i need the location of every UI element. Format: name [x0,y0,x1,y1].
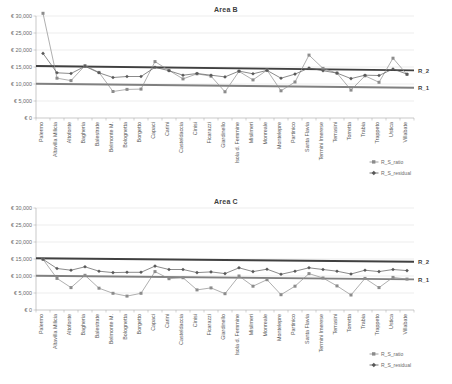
diamond-marker-icon [251,72,255,76]
chart-svg-1: € 0€ 5,000€ 10,000€ 15,000€ 20,000€ 25,0… [0,0,452,192]
x-axis-tick-label[interactable]: Giardinello [220,122,226,148]
reference-line-label-R_1: R_1 [418,277,430,283]
y-axis-tick-label: € 0 [25,115,33,121]
x-axis-tick-label[interactable]: Villabate [402,314,408,335]
reference-line-R_1 [36,276,414,280]
x-axis-tick-label[interactable]: Giardinello [220,314,226,340]
charts-root: Area B€ 0€ 5,000€ 10,000€ 15,000€ 20,000… [0,0,452,384]
series-line-R_S_ratio [43,13,407,92]
diamond-marker-icon [391,268,395,272]
x-axis-tick-label[interactable]: Casteldaccia [178,122,184,153]
x-axis-tick-label[interactable]: Santa Flavia [304,314,310,344]
x-axis-tick-label[interactable]: Trabia [360,122,366,137]
square-marker-icon [182,276,185,279]
diamond-marker-icon [69,72,73,76]
x-axis-tick-label[interactable]: Bagheria [80,122,86,144]
x-axis-tick-label[interactable]: Belmonte M. [108,122,114,152]
x-axis-tick-label[interactable]: Balestrate [94,314,100,338]
square-marker-icon [126,88,129,91]
x-axis-tick-label[interactable]: Bagheria [80,314,86,336]
x-axis-tick-label[interactable]: Cinisi [192,122,198,135]
x-axis-tick-label[interactable]: Montelepre [276,122,282,149]
diamond-marker-icon [293,72,297,76]
x-axis-tick-label[interactable]: Altavilla Milicia [52,314,58,349]
square-marker-icon [322,277,325,280]
x-axis-tick-label[interactable]: Bolognetta [122,314,128,340]
x-axis-tick-label[interactable]: Villabate [402,122,408,143]
x-axis-tick-label[interactable]: Misilmeri [248,122,254,143]
plot-area: € 0€ 5,000€ 10,000€ 15,000€ 20,000€ 25,0… [0,0,452,192]
square-marker-icon [252,285,255,288]
square-marker-icon [140,292,143,295]
square-marker-icon [294,81,297,84]
x-axis-tick-label[interactable]: Montelepre [276,314,282,341]
square-marker-icon [308,54,311,57]
y-axis-tick-label: € 10,000 [11,81,32,87]
x-axis-tick-label[interactable]: Capaci [150,314,156,331]
chart-svg-2: € 0€ 5,000€ 10,000€ 15,000€ 20,000€ 25,0… [0,192,452,384]
diamond-marker-icon [125,75,129,79]
x-axis-tick-label[interactable]: Trabia [360,314,366,329]
chart-block-2: Area C€ 0€ 5,000€ 10,000€ 15,000€ 20,000… [0,192,452,384]
x-axis-tick-label[interactable]: Trappeto [374,314,380,335]
x-axis-tick-label[interactable]: Terrasini [332,122,338,142]
x-axis-tick-label[interactable]: Palermo [38,122,44,142]
x-axis-tick-label[interactable]: Isola d. Femmine [234,122,240,163]
square-marker-icon [378,81,381,84]
x-axis-tick-label[interactable]: Misilmeri [248,314,254,335]
x-axis-tick-label[interactable]: Carini [164,122,170,136]
y-axis-tick-label: € 5,000 [14,290,32,296]
x-axis-tick-label[interactable]: Carini [164,314,170,328]
square-marker-icon [168,277,171,280]
diamond-marker-icon [55,267,59,271]
x-axis-tick-label[interactable]: Partinico [290,122,296,143]
x-axis-tick-label[interactable]: Cinisi [192,314,198,327]
y-axis-tick-label: € 10,000 [11,273,32,279]
x-axis-tick-label[interactable]: Isola d. Femmine [234,314,240,355]
diamond-marker-icon [167,268,171,272]
x-axis-tick-label[interactable]: Torretta [346,122,352,140]
x-axis-tick-label[interactable]: Partinico [290,314,296,335]
diamond-marker-icon [279,76,283,80]
x-axis-tick-label[interactable]: Bolognetta [122,122,128,148]
x-axis-tick-label[interactable]: Ficarazzi [206,122,212,144]
x-axis-tick-label[interactable]: Balestrate [94,122,100,146]
reference-line-label-R_2: R_2 [418,259,430,265]
legend-label[interactable]: R_S_ratio [381,159,403,165]
x-axis-tick-label[interactable]: Torretta [346,314,352,332]
x-axis-tick-label[interactable]: Ustica [388,122,394,137]
square-marker-icon [392,276,395,279]
diamond-marker-icon [293,269,297,273]
x-axis-tick-label[interactable]: Trappeto [374,122,380,143]
reference-line-label-R_2: R_2 [418,68,430,74]
x-axis-tick-label[interactable]: Palermo [38,314,44,334]
legend-label[interactable]: R_S_residual [381,170,411,176]
x-axis-tick-label[interactable]: Belmonte M. [108,314,114,344]
x-axis-tick-label[interactable]: Capaci [150,122,156,139]
diamond-marker-icon [111,271,115,275]
x-axis-tick-label[interactable]: Altofonte [66,122,72,143]
diamond-marker-icon [377,270,381,274]
x-axis-tick-label[interactable]: Borgetto [136,314,142,334]
reference-line-R_1 [36,84,414,88]
square-marker-icon [56,277,59,280]
x-axis-tick-label[interactable]: Termini Imerese [318,314,324,352]
square-marker-icon [280,293,283,296]
legend-label[interactable]: R_S_ratio [381,351,403,357]
x-axis-tick-label[interactable]: Monreale [262,122,268,144]
x-axis-tick-label[interactable]: Altavilla Milicia [52,122,58,157]
x-axis-tick-label[interactable]: Santa Flavia [304,122,310,152]
x-axis-tick-label[interactable]: Ustica [388,314,394,329]
diamond-marker-icon [223,272,227,276]
x-axis-tick-label[interactable]: Termini Imerese [318,122,324,160]
square-marker-icon [56,77,59,80]
x-axis-tick-label[interactable]: Terrasini [332,314,338,334]
legend-label[interactable]: R_S_residual [381,362,411,368]
x-axis-tick-label[interactable]: Casteldaccia [178,314,184,345]
diamond-marker-icon [111,76,115,80]
x-axis-tick-label[interactable]: Monreale [262,314,268,336]
x-axis-tick-label[interactable]: Ficarazzi [206,314,212,336]
x-axis-tick-label[interactable]: Altofonte [66,314,72,335]
x-axis-tick-label[interactable]: Borgetto [136,122,142,142]
diamond-marker-icon [349,77,353,81]
